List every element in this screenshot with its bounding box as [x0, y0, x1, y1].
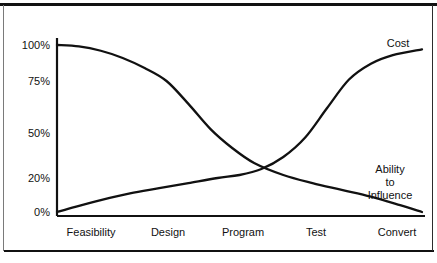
y-tick-label-100: 100%	[6, 39, 50, 51]
chart-figure: 100% 75% 50% 20% 0% Feasibility Design P…	[0, 0, 437, 263]
x-tick-label-design: Design	[151, 226, 185, 238]
ability-label-line-2: to	[368, 176, 413, 189]
x-tick-label-program: Program	[222, 226, 264, 238]
cost-series-label: Cost	[387, 37, 410, 50]
x-tick-label-convert: Convert	[378, 226, 417, 238]
chart-plot-area	[0, 0, 437, 263]
ability-label-line-3: Influence	[368, 189, 413, 202]
y-tick-label-75: 75%	[6, 75, 50, 87]
y-tick-label-20: 20%	[6, 172, 50, 184]
ability-to-influence-series-label: Ability to Influence	[368, 163, 413, 202]
x-tick-label-feasibility: Feasibility	[67, 226, 116, 238]
y-tick-label-50: 50%	[6, 127, 50, 139]
x-tick-label-test: Test	[306, 226, 326, 238]
ability-label-line-1: Ability	[368, 163, 413, 176]
y-tick-label-0: 0%	[6, 206, 50, 218]
